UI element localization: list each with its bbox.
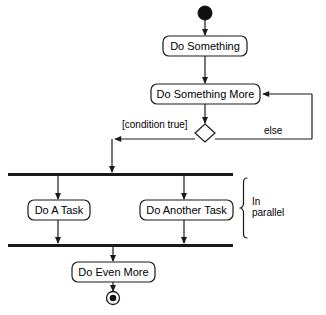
initial-node-hit[interactable] <box>198 6 212 20</box>
edge-label-condition-true: [condition true] <box>122 120 188 130</box>
activity-do-even-more[interactable] <box>72 262 155 282</box>
activity-do-another-task[interactable] <box>140 200 233 220</box>
in-parallel-brace-icon <box>241 178 248 238</box>
fork-bar-hit[interactable] <box>8 171 233 178</box>
in-parallel-line-1: In <box>252 196 284 207</box>
final-node-hit[interactable] <box>106 291 120 305</box>
decision-node-hit[interactable] <box>195 124 215 142</box>
edge-label-else: else <box>264 126 282 136</box>
uml-activity-diagram: Do Something Do Something More Do A Task… <box>0 0 326 315</box>
activity-do-something-more[interactable] <box>151 84 260 104</box>
in-parallel-annotation: In parallel <box>252 196 284 218</box>
activity-do-a-task[interactable] <box>28 200 90 220</box>
join-bar-hit[interactable] <box>8 242 233 249</box>
in-parallel-line-2: parallel <box>252 207 284 218</box>
activity-do-something[interactable] <box>163 36 247 56</box>
